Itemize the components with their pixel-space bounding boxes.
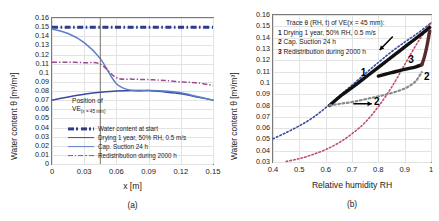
y-tick-label: 0.16 <box>256 11 270 18</box>
y-tick-label: 0.03 <box>35 133 49 140</box>
y-tick-label: 0.16 <box>35 14 49 21</box>
x-tick-label: 0.06 <box>109 168 124 176</box>
panel-b-trace-legend: Trace θ (RH, t) of VE(x = 45 mm): 1 Dryi… <box>278 18 385 56</box>
trace-item-text: Redistribution during 2000 h <box>284 48 366 55</box>
y-tick-label: 0.14 <box>256 34 270 41</box>
series-line <box>422 31 430 65</box>
x-tick-label: 0 <box>50 168 54 176</box>
trace-legend-title: Trace θ (RH, t) of VE(x = 45 mm): <box>278 18 385 28</box>
legend-label: Cap. Suction 24 h <box>98 142 148 151</box>
ve-annotation-main: VE <box>72 105 81 112</box>
y-tick-label: 0.08 <box>256 102 270 109</box>
legend-item: Cap. Suction 24 h <box>68 142 186 151</box>
y-tick-label: 0.05 <box>35 115 49 122</box>
y-tick-label: 0.12 <box>35 51 49 58</box>
y-tick-label: 0.13 <box>35 42 49 49</box>
trace-legend-items: 1 Drying 1 year, 50% RH, 0.5 m/s2 Cap. S… <box>278 28 385 57</box>
panel-b-x-axis-title: Relative humidity RH <box>272 180 432 190</box>
y-tick-label: 0.11 <box>257 68 270 75</box>
curve-label: 2 <box>424 71 430 82</box>
curve-label: 1 <box>361 67 367 78</box>
y-tick-label: 0.04 <box>256 147 270 154</box>
legend-label: Drying 1 year, 50% RH, 0.5 m/s <box>98 133 186 142</box>
panel-b-y-axis-title: Water content θ [m³/m³] <box>229 72 239 160</box>
y-tick-label: 0.13 <box>256 45 270 52</box>
gridline-vertical <box>431 15 432 162</box>
y-tick-label: 0.15 <box>35 23 49 30</box>
y-tick-label: 0.02 <box>35 142 49 149</box>
trace-item-text: Drying 1 year, 50% RH, 0.5 m/s <box>284 29 376 36</box>
x-tick-label: 1 <box>429 166 433 174</box>
legend-swatch <box>68 152 94 159</box>
y-tick-label: 0.12 <box>256 57 270 64</box>
y-tick-label: 0.14 <box>35 33 49 40</box>
y-tick-label: 0.04 <box>35 124 49 131</box>
x-tick-label: 0.15 <box>206 168 221 176</box>
legend-item: Redistribution during 2000 h <box>68 151 186 160</box>
y-tick-label: 0.1 <box>260 79 270 86</box>
x-tick-label: 0.7 <box>347 166 358 174</box>
legend-label: Water content at start <box>98 124 158 133</box>
panel-a-ve-annotation: Position of VE(x = 45 mm) <box>72 97 105 116</box>
x-tick-label: 0.9 <box>399 166 410 174</box>
gridline-horizontal <box>273 162 431 163</box>
trace-legend-item: 2 Cap. Suction 24 h <box>278 37 385 47</box>
panel-a-y-axis-title: Water content θ [m³/m³] <box>9 72 19 160</box>
legend-swatch <box>68 134 94 141</box>
y-tick-label: 0.11 <box>36 60 49 67</box>
legend-item: Water content at start <box>68 124 186 133</box>
y-tick-label: 0.01 <box>35 151 49 158</box>
figure-root: Water content θ [m³/m³] 00.010.020.030.0… <box>0 0 439 221</box>
curve-label: 3 <box>408 54 414 65</box>
y-tick-label: 0.05 <box>256 136 270 143</box>
y-tick-label: 0.09 <box>256 91 270 98</box>
x-tick-label: 0.09 <box>141 168 156 176</box>
series-line <box>52 29 213 100</box>
series-line <box>52 62 213 85</box>
y-tick-label: 0.09 <box>35 78 49 85</box>
gridline-horizontal <box>52 164 213 165</box>
x-tick-label: 0.12 <box>173 168 188 176</box>
x-tick-label: 0.5 <box>294 166 305 174</box>
panel-b-caption: (b) <box>272 199 432 209</box>
trace-legend-item: 3 Redistribution during 2000 h <box>278 47 385 57</box>
y-tick-label: 0.07 <box>35 96 49 103</box>
y-tick-label: 0.06 <box>256 124 270 131</box>
y-tick-label: 0.07 <box>256 113 270 120</box>
y-tick-label: 0.1 <box>39 69 49 76</box>
x-tick-label: 0.4 <box>268 166 279 174</box>
legend-swatch <box>68 143 94 150</box>
panel-a-x-axis-title: x [m] <box>51 181 214 191</box>
y-tick-label: 0.15 <box>256 23 270 30</box>
ve-annotation-subscript: (x = 45 mm) <box>81 109 106 114</box>
x-tick-label: 0.6 <box>320 166 331 174</box>
y-tick-label: 0 <box>45 160 49 167</box>
legend-swatch <box>68 125 94 132</box>
panel-a-caption: (a) <box>51 200 214 210</box>
ve-annotation-line2: VE(x = 45 mm) <box>72 105 105 116</box>
curve-label: 2 <box>374 96 380 107</box>
gridline-vertical <box>213 18 214 164</box>
panel-a-legend: Water content at startDrying 1 year, 50%… <box>68 124 186 160</box>
x-tick-label: 0.03 <box>77 168 92 176</box>
y-tick-label: 0.06 <box>35 106 49 113</box>
y-tick-label: 0.08 <box>35 87 49 94</box>
ve-annotation-line1: Position of <box>72 97 105 105</box>
trace-legend-item: 1 Drying 1 year, 50% RH, 0.5 m/s <box>278 28 385 38</box>
panel-a: Water content θ [m³/m³] 00.010.020.030.0… <box>0 0 219 221</box>
x-tick-label: 0.8 <box>373 166 384 174</box>
legend-label: Redistribution during 2000 h <box>98 151 177 160</box>
panel-b: Water content θ [m³/m³] 0.030.040.050.06… <box>220 0 439 221</box>
trace-item-text: Cap. Suction 24 h <box>284 38 336 45</box>
legend-item: Drying 1 year, 50% RH, 0.5 m/s <box>68 133 186 142</box>
